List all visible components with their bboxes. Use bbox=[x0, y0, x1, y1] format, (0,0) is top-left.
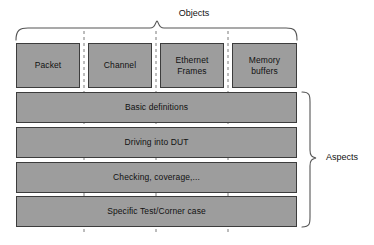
object-box-packet[interactable]: Packet bbox=[16, 43, 80, 88]
object-box-label: Ethernet Frames bbox=[176, 55, 209, 76]
object-box-label: Memory buffers bbox=[249, 55, 280, 76]
object-box-channel[interactable]: Channel bbox=[88, 43, 152, 88]
objects-brace-label: Objects bbox=[0, 8, 374, 18]
aspect-row-label: Driving into DUT bbox=[125, 137, 189, 148]
object-box-label-line2: Frames bbox=[177, 66, 206, 76]
aspect-row-label: Checking, coverage,... bbox=[113, 172, 200, 183]
object-box-label-line1: Memory bbox=[249, 55, 280, 65]
aspects-brace-label: Aspects bbox=[326, 152, 358, 162]
object-box-ethernet-frames[interactable]: Ethernet Frames bbox=[160, 43, 224, 88]
aspect-row-label: Basic definitions bbox=[125, 102, 188, 113]
object-box-label: Packet bbox=[35, 60, 62, 71]
aspect-row-basic-definitions[interactable]: Basic definitions bbox=[16, 92, 297, 123]
object-box-memory-buffers[interactable]: Memory buffers bbox=[232, 43, 297, 88]
aspect-row-checking-coverage[interactable]: Checking, coverage,... bbox=[16, 162, 297, 193]
objects-aspects-diagram: Objects Aspects Packet Channel Ethernet … bbox=[0, 0, 374, 245]
aspect-row-label: Specific Test/Corner case bbox=[107, 206, 206, 217]
object-box-label-line1: Ethernet bbox=[176, 55, 209, 65]
aspect-row-specific-test-corner-case[interactable]: Specific Test/Corner case bbox=[16, 196, 297, 227]
aspect-row-driving-into-dut[interactable]: Driving into DUT bbox=[16, 127, 297, 158]
object-box-label: Channel bbox=[104, 60, 136, 71]
object-box-label-line2: buffers bbox=[251, 66, 278, 76]
aspects-brace-icon bbox=[302, 92, 316, 227]
